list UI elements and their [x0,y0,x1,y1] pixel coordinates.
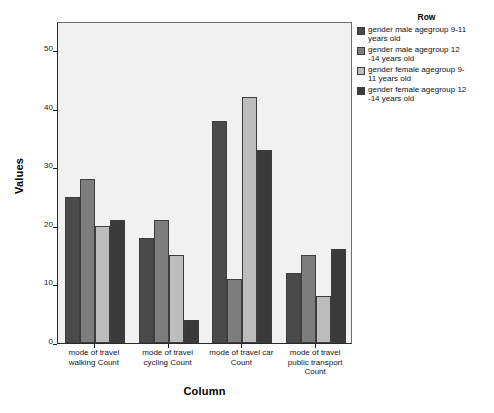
bar [65,197,80,343]
legend-swatch-icon [357,67,365,75]
bar [286,273,301,343]
legend-item[interactable]: gender female agegroup 12-14 years old [357,86,494,103]
plot-area [57,22,352,344]
legend-item-label: gender female agegroup 9-11 years old [368,66,465,83]
y-axis-title: Values [13,141,25,211]
x-axis-category-label: mode of travelpublic transportCount [270,348,360,377]
bar [110,220,125,343]
bar-group [212,23,272,343]
bar [95,226,110,343]
bar [184,320,199,343]
y-axis-tick-label: 40 [44,104,53,112]
x-axis-category-label-line: public transport [270,358,360,368]
legend-item[interactable]: gender male agegroup 9-11years old [357,26,494,43]
bar-group [65,23,125,343]
legend-item[interactable]: gender male agegroup 12-14 years old [357,46,494,63]
bar-group [139,23,199,343]
x-axis-category-label-line: mode of travel [270,348,360,358]
bar [80,179,95,343]
legend-swatch-icon [357,87,365,95]
legend-item-label: gender male agegroup 9-11years old [368,26,466,43]
bar [316,296,331,343]
legend-item-label: gender female agegroup 12-14 years old [368,86,466,103]
y-axis-tick-label: 10 [44,279,53,287]
y-axis-tick-label: 30 [44,162,53,170]
legend: Row gender male agegroup 9-11years oldge… [357,12,494,106]
legend-item-label-line: 11 years old [368,75,465,84]
x-axis-category-label-line: Count [270,367,360,377]
bar [331,249,346,343]
plot-inner [58,23,351,343]
legend-items: gender male agegroup 9-11years oldgender… [357,26,494,103]
bar [257,150,272,343]
legend-item-label-line: -14 years old [368,95,466,104]
bar [227,279,242,343]
bar [169,255,184,343]
legend-item-label-line: -14 years old [368,55,460,64]
bar [301,255,316,343]
legend-swatch-icon [357,27,365,35]
legend-title: Row [363,12,490,22]
legend-swatch-icon [357,47,365,55]
bar-chart: Values 01020304050 Column Row gender mal… [0,0,494,413]
y-axis-tick-mark [53,344,57,345]
bar [139,238,154,343]
bar-group [286,23,346,343]
x-axis-title: Column [57,385,352,397]
y-axis: 01020304050 [40,22,57,344]
y-axis-tick-label: 20 [44,221,53,229]
bar [154,220,169,343]
y-axis-tick-label: 50 [44,45,53,53]
legend-item-label-line: years old [368,35,466,44]
legend-item-label: gender male agegroup 12-14 years old [368,46,460,63]
bar [212,121,227,343]
legend-item[interactable]: gender female agegroup 9-11 years old [357,66,494,83]
bar [242,97,257,343]
